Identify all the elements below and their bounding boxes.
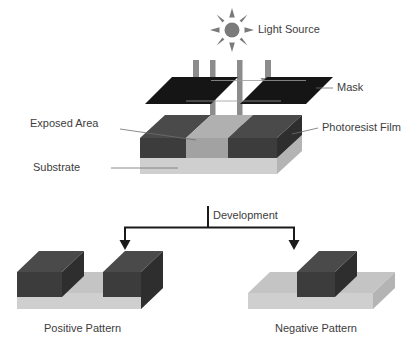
label-photoresist-film: Photoresist Film (322, 121, 401, 133)
sun-icon (210, 8, 254, 52)
label-mask: Mask (337, 81, 363, 93)
label-light-source: Light Source (258, 23, 320, 35)
label-exposed-area: Exposed Area (30, 117, 99, 129)
photolithography-diagram-svg (0, 0, 415, 347)
positive-right-block-front-face (103, 272, 141, 297)
label-development: Development (213, 209, 278, 221)
exposed-middle-front-face (186, 138, 228, 158)
label-negative-pattern: Negative Pattern (275, 322, 357, 334)
substrate-front-face (140, 158, 277, 174)
wafer-block-exposure (140, 115, 302, 174)
mask-left-plate (145, 77, 238, 104)
positive-left-block-front-face (17, 272, 62, 297)
resist-right-front-face (228, 138, 277, 158)
label-substrate: Substrate (33, 161, 80, 173)
diagram-canvas: Light Source Mask Exposed Area Photoresi… (0, 0, 415, 347)
negative-pattern-block (248, 251, 395, 309)
positive-pattern-block (17, 251, 163, 309)
negative-center-block-front-face (297, 272, 335, 297)
resist-left-front-face (140, 138, 186, 158)
label-positive-pattern: Positive Pattern (44, 322, 121, 334)
mask-right-plate (240, 77, 333, 104)
